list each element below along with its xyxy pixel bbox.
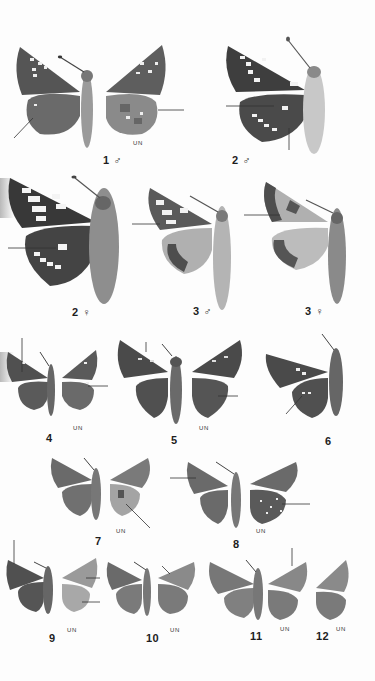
figure-5-label: 5 xyxy=(171,434,178,446)
figure-1-underside-label: UN xyxy=(133,140,143,146)
figure-10-label: 10 xyxy=(146,632,159,644)
figure-4-underside-label: UN xyxy=(73,425,83,431)
figure-12-underside-label: UN xyxy=(336,626,346,632)
figure-2-female-specimen xyxy=(8,175,119,304)
figure-3-male-label: 3 ♂ xyxy=(193,305,212,317)
figure-1-specimen xyxy=(14,45,184,148)
figure-11-specimen xyxy=(209,548,307,620)
figure-5-underside-label: UN xyxy=(199,425,209,431)
figure-9-underside-label: UN xyxy=(67,627,77,633)
figure-6-label: 6 xyxy=(325,435,332,447)
figure-7-label: 7 xyxy=(95,535,102,547)
figure-3-male-specimen xyxy=(132,188,231,310)
figure-10-underside-label: UN xyxy=(170,627,180,633)
figure-9-label: 9 xyxy=(49,632,56,644)
figure-11-label: 11 xyxy=(250,630,263,642)
figure-7-specimen xyxy=(51,458,150,528)
figure-11-underside-label: UN xyxy=(280,626,290,632)
figure-2-female-label: 2 ♀ xyxy=(72,306,91,318)
figure-12-label: 12 xyxy=(316,630,329,642)
figure-12-specimen xyxy=(316,560,349,620)
figure-2-male-specimen xyxy=(226,36,325,154)
figure-3-female-label: 3 ♀ xyxy=(305,305,324,317)
figure-6-specimen xyxy=(266,334,343,418)
figure-5-specimen xyxy=(118,340,242,424)
figure-4-label: 4 xyxy=(46,432,53,444)
figure-7-underside-label: UN xyxy=(116,528,126,534)
figure-8-underside-label: UN xyxy=(256,528,266,534)
figure-1-label: 1 ♂ xyxy=(103,154,122,166)
figure-9-specimen xyxy=(6,540,100,614)
figure-10-specimen xyxy=(107,562,195,616)
figure-8-label: 8 xyxy=(233,538,240,550)
specimen-illustrations xyxy=(0,0,375,681)
figure-8-specimen xyxy=(170,462,310,528)
figure-2-male-label: 2 ♂ xyxy=(232,154,251,166)
figure-3-female-specimen xyxy=(244,182,346,304)
specimen-plate: 1 ♂ UN 2 ♂ 2 ♀ 3 ♂ 3 ♀ 4 UN 5 UN 6 7 UN … xyxy=(0,0,375,681)
figure-4-specimen xyxy=(7,338,108,416)
